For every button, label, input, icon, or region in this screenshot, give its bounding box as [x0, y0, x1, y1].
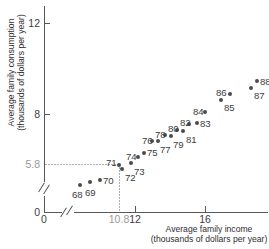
data-point-label-68: 68	[72, 190, 83, 200]
data-point-label-78: 78	[155, 130, 166, 140]
y-tick-8	[44, 114, 50, 115]
data-point-label-86: 86	[216, 88, 227, 98]
x-axis-title: Average family income (thousands of doll…	[148, 224, 269, 245]
data-point-label-79: 79	[173, 140, 184, 150]
data-point-88	[255, 79, 259, 83]
data-point-87	[249, 86, 253, 90]
y-tick-label-8: 8	[0, 108, 40, 120]
data-point-label-88: 88	[260, 77, 269, 87]
data-point-85	[219, 98, 223, 102]
y-tick-12	[44, 23, 50, 24]
data-point-70	[98, 178, 102, 182]
data-point-label-76: 76	[142, 136, 153, 146]
x-axis-break-mark-right	[66, 205, 73, 215]
data-point-75	[142, 151, 146, 155]
x-tick-label-12: 12	[115, 213, 155, 225]
data-point-label-74: 74	[126, 152, 137, 162]
data-point-label-80: 80	[168, 124, 179, 134]
data-point-label-77: 77	[160, 145, 171, 155]
data-point-label-70: 70	[103, 176, 114, 186]
x-tick-16	[205, 206, 206, 212]
data-point-label-71: 71	[106, 158, 117, 168]
data-point-label-85: 85	[224, 103, 235, 113]
data-point-label-84: 84	[193, 107, 204, 117]
data-point-68	[78, 183, 82, 187]
x-tick-12	[135, 206, 136, 212]
y-axis-break-mark-lower	[43, 184, 50, 194]
data-point-86	[228, 92, 232, 96]
x-tick-label-0: 0	[24, 213, 64, 225]
y-axis-lower-segment	[44, 196, 45, 213]
y-tick-label-12: 12	[0, 17, 40, 29]
data-point-69	[88, 180, 92, 184]
data-point-label-69: 69	[85, 188, 96, 198]
y-tick-label-5.8: 5.8	[0, 158, 40, 170]
data-point-79	[169, 134, 173, 138]
scatter-plot-figure: Average family consumption (thousands of…	[0, 0, 269, 249]
data-point-label-82: 82	[180, 118, 191, 128]
data-point-81	[181, 129, 185, 133]
data-point-label-73: 73	[134, 167, 145, 177]
data-point-72	[120, 167, 124, 171]
data-point-83	[195, 121, 199, 125]
data-point-label-83: 83	[200, 119, 211, 129]
data-point-label-87: 87	[254, 91, 265, 101]
guide-line-vertical-10-8	[119, 164, 120, 211]
data-point-label-81: 81	[186, 135, 197, 145]
data-point-label-75: 75	[147, 148, 158, 158]
y-axis-line	[44, 6, 45, 182]
x-tick-label-16: 16	[185, 213, 225, 225]
